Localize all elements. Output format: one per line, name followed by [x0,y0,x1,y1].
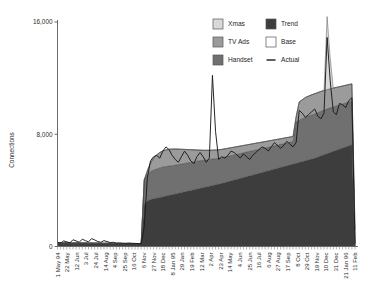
legend-swatch-xmas [213,19,223,29]
x-tick-label: 23 Apr [218,253,224,270]
x-tick-label: 14 May [227,253,233,273]
legend-label-trend: Trend [281,20,298,27]
x-tick-label: 4 Sep [112,252,118,268]
x-tick-label: 31 Dec [333,253,339,272]
x-tick-label: 10 Dec [323,253,329,272]
legend-label-handset: Handset [228,56,253,63]
x-tick-label: 8 Jan 95 [170,252,176,276]
x-tick-label: 16 Oct [131,252,137,270]
x-tick-label: 25 Sep [122,252,128,272]
x-tick-label: 22 May [64,253,70,273]
x-axis: 1 May 9422 May12 Jun3 Jul24 Jul14 Aug4 S… [55,247,359,279]
y-axis: 08,00016,000 [33,18,58,250]
y-tick-label: 8,000 [37,131,53,138]
legend-swatch-base [266,37,276,47]
x-tick-label: 6 Aug [266,253,272,268]
x-tick-label: 19 Nov [314,253,320,272]
x-tick-label: 14 Aug [103,253,109,272]
x-tick-label: 29 Jan [179,253,185,271]
legend-label-xmas: Xmas [228,20,246,27]
legend-swatch-trend [266,19,276,29]
legend-label-base: Base [281,38,296,45]
x-tick-label: 21 Jan 96 [343,252,349,279]
legend-swatch-handset [213,55,223,65]
legend-swatch-tv-ads [213,37,223,47]
x-tick-label: 27 Nov [151,253,157,272]
x-tick-label: 27 Aug [275,253,281,272]
x-tick-label: 16 Jul [256,253,262,269]
x-tick-label: 8 Oct [295,252,301,267]
y-axis-label: Connections [8,132,15,168]
x-tick-label: 17 Sep [285,252,291,272]
x-tick-label: 19 Feb [189,252,195,271]
x-tick-label: 2 Apr [208,253,214,267]
x-tick-label: 11 Feb [352,252,358,271]
chart-figure: 08,00016,000 1 May 9422 May12 Jun3 Jul24… [0,0,366,297]
chart-legend: XmasTrendTV AdsBaseHandsetActual [213,19,300,65]
legend-label-actual: Actual [281,56,300,63]
x-tick-label: 24 Jul [93,253,99,269]
plot-area-stack [58,17,356,247]
y-tick-label: 0 [49,243,53,250]
x-tick-label: 25 Jun [247,253,253,271]
y-tick-label: 16,000 [33,18,53,25]
x-tick-label: 3 Jul [83,253,89,266]
x-tick-label: 12 Mar [199,253,205,272]
y-axis-title: Connections [8,132,15,168]
x-tick-label: 12 Jun [74,253,80,271]
x-tick-label: 29 Oct [304,252,310,270]
x-tick-label: 6 Nov [141,253,147,269]
area-chart-svg: 08,00016,000 1 May 9422 May12 Jun3 Jul24… [0,0,366,297]
x-tick-label: 1 May 94 [55,252,61,277]
legend-label-tv-ads: TV Ads [228,38,250,45]
x-tick-label: 4 Jun [237,253,243,268]
x-tick-label: 18 Dec [160,253,166,272]
